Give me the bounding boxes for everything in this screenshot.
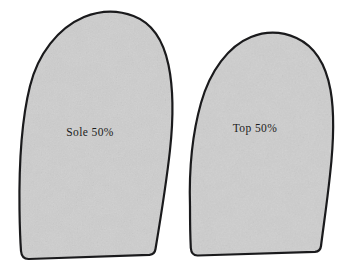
shoe-pattern-pieces-diagram: Sole 50% Top 50% [0, 0, 351, 269]
top-piece-label: Top 50% [233, 122, 277, 135]
sole-piece-label: Sole 50% [66, 126, 114, 138]
pattern-pieces-canvas: Sole 50% Top 50% [0, 0, 351, 269]
